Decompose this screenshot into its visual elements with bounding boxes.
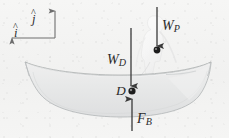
force-symbol-wd: W (107, 52, 119, 67)
j-hat-accent: ^ (31, 8, 36, 18)
point-p-marker (154, 47, 161, 54)
force-label-fb: FB (137, 112, 152, 127)
point-d-highlight (130, 89, 132, 91)
i-hat-accent: ^ (13, 22, 18, 32)
point-p-highlight (155, 48, 157, 50)
point-label-d: D (116, 84, 126, 98)
force-subscript-fb: B (146, 116, 152, 127)
force-label-wd: WD (107, 53, 126, 68)
force-subscript-wp: P (174, 23, 180, 34)
axis-label-j: ^j (32, 13, 35, 26)
force-symbol-fb: F (137, 111, 146, 126)
point-d-marker (128, 87, 135, 94)
force-symbol-wp: W (162, 18, 174, 33)
force-subscript-wd: D (119, 57, 126, 68)
force-diagram-figure: ^j ^i WP WD FB D (0, 0, 229, 138)
force-label-wp: WP (162, 19, 180, 34)
axis-label-i: ^i (14, 27, 17, 40)
